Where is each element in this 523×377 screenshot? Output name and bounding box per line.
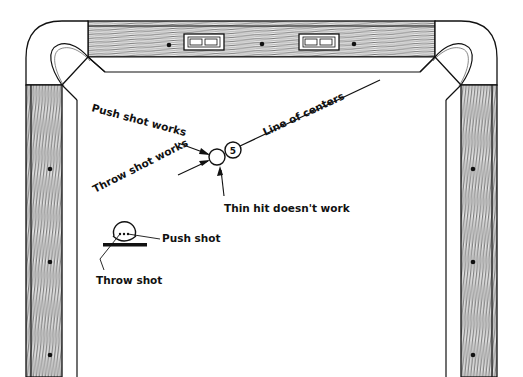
cue-tip-inset <box>100 222 160 270</box>
top-rail <box>88 21 435 72</box>
right-rail <box>446 85 497 377</box>
label-push-shot: Push shot <box>162 232 221 244</box>
diamond-sight <box>352 42 357 47</box>
label-throw-shot: Throw shot <box>96 274 162 286</box>
diamond-sight <box>48 167 53 172</box>
cue-ball <box>209 149 225 165</box>
label-push-shot-works: Push shot works <box>90 101 187 138</box>
diamond-sight <box>48 260 53 265</box>
object-ball-number: 5 <box>230 146 236 156</box>
top-cushion <box>88 57 435 72</box>
diamond-sight <box>471 353 476 358</box>
diamond-sight <box>48 353 53 358</box>
label-throw-shot-works: Throw shot works <box>90 136 189 195</box>
diamond-sight <box>471 167 476 172</box>
pool-table-diagram: 5 Push shot works Throw shot works Thin … <box>0 0 523 377</box>
diamond-sight <box>167 43 172 48</box>
thin-hit-arrow <box>217 166 224 196</box>
throw-shot-arrow <box>178 160 210 175</box>
diamond-sight <box>260 42 265 47</box>
rail-nameplate <box>184 34 224 50</box>
diamond-sight <box>471 260 476 265</box>
rail-nameplate <box>299 34 339 50</box>
label-line-of-centers: Line of centers <box>261 90 346 138</box>
left-rail <box>26 85 77 377</box>
label-thin-hit: Thin hit doesn't work <box>224 202 351 214</box>
